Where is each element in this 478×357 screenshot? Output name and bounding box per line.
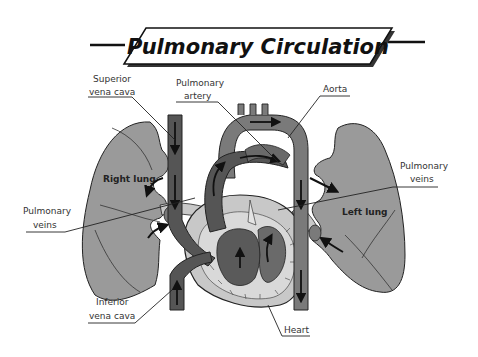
svg-text:Inferior: Inferior [96, 297, 129, 307]
svg-text:Pulmonary: Pulmonary [23, 206, 72, 216]
svg-text:Aorta: Aorta [323, 84, 347, 94]
svg-text:Pulmonary: Pulmonary [400, 161, 449, 171]
title-banner: Pulmonary Circulation [90, 28, 425, 67]
svg-text:vena cava: vena cava [89, 311, 135, 321]
svg-text:Pulmonary: Pulmonary [176, 78, 225, 88]
svg-text:vena cava: vena cava [89, 87, 135, 97]
right-lung-label: Right lung [103, 174, 156, 184]
svg-text:veins: veins [33, 220, 57, 230]
left-lung-label: Left lung [342, 207, 388, 217]
svg-text:veins: veins [410, 174, 434, 184]
left-lung: Left lung [310, 124, 405, 293]
svg-text:Heart: Heart [284, 325, 310, 335]
page-title: Pulmonary Circulation [127, 35, 389, 59]
svg-text:artery: artery [184, 91, 212, 101]
pulmonary-circulation-diagram: Pulmonary Circulation Right lung Left lu… [0, 0, 478, 357]
svg-text:Superior: Superior [93, 74, 131, 84]
right-lung: Right lung [82, 122, 168, 300]
